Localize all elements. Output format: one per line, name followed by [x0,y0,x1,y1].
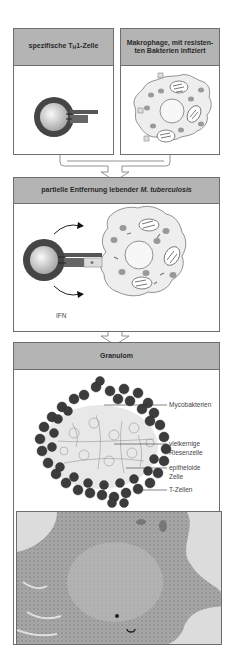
label-giant-cell-1: vielkernige [169,440,200,448]
label-giant-cell-2: Riesenzelle [169,449,203,457]
panel-removal: partielle Entfernung lebender M. tubercu… [13,177,220,332]
th1-cell-icon [14,29,115,156]
histology-image [16,511,222,645]
histology-section-icon [17,512,222,645]
th1-macrophage-interaction-icon [14,178,221,333]
panel-th1-cell: spezifische TH1-Zelle [13,28,114,155]
infected-macrophage-icon [121,29,221,156]
panel-macrophage: Makrophage, mit resisten-ten Bakterien i… [120,28,220,155]
connector-arrow-1 [0,150,231,180]
label-mycobacteria: Mycobakterien [169,401,211,409]
label-epithelioid-1: epitheloide [169,464,200,472]
label-t-cells: T-Zellen [169,486,192,494]
label-epithelioid-2: Zelle [169,473,183,481]
ifn-label: IFN [56,312,66,320]
